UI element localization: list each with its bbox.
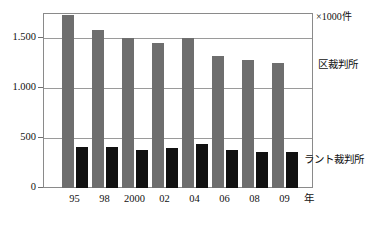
bar <box>212 56 224 188</box>
bar <box>256 152 268 189</box>
bar-chart: ×1000件 05001.0001.500 959820000204060809… <box>0 0 388 227</box>
series-label-2: ラント裁判所 <box>304 154 364 166</box>
bars-layer <box>43 13 313 188</box>
bar <box>286 152 298 189</box>
y-tick-label: 500 <box>20 132 36 142</box>
bar <box>272 63 284 188</box>
bar <box>76 147 88 189</box>
bar <box>182 38 194 188</box>
x-axis: 959820000204060809年 <box>0 190 388 210</box>
y-tick-label: 1.500 <box>12 32 36 42</box>
bar <box>92 30 104 188</box>
bar <box>106 147 118 189</box>
bar <box>122 38 134 188</box>
bar <box>136 150 148 188</box>
bar <box>242 60 254 188</box>
bar <box>196 144 208 188</box>
series-label-1: 区裁判所 <box>318 59 358 71</box>
x-axis-title: 年 <box>304 193 314 205</box>
unit-caption: ×1000件 <box>316 8 352 23</box>
bar <box>152 43 164 188</box>
x-tick-label: 09 <box>265 193 305 205</box>
bar <box>62 15 74 188</box>
y-tick-label: 1.000 <box>12 82 36 92</box>
bar <box>226 150 238 188</box>
bar <box>166 148 178 189</box>
